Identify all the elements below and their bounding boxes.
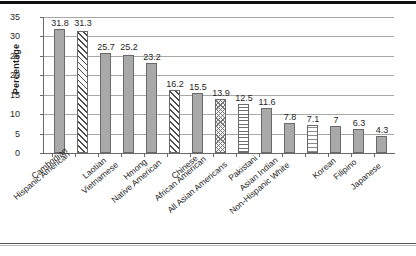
figure-bottom-rule	[0, 243, 416, 244]
figure: Percentage 35 30 25 20 15 10 5 0	[0, 0, 416, 256]
x-axis-labels: Cambodian Hispanic American Laotian Viet…	[0, 0, 416, 256]
figure-bottom-rule-secondary	[0, 245, 416, 246]
x-axis-label-hispanic-american: Hispanic American	[12, 150, 72, 202]
